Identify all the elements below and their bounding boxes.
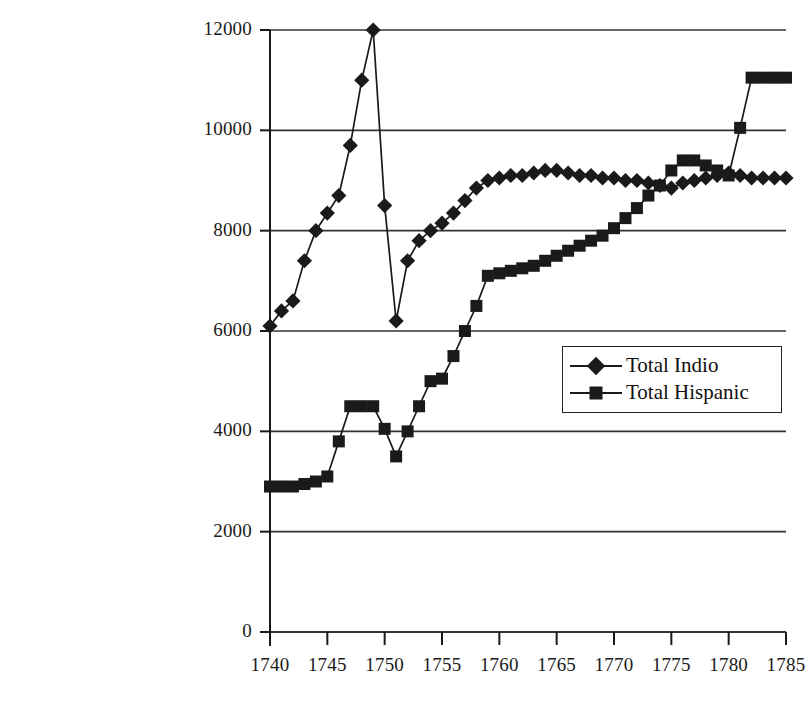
legend-label-total-hispanic: Total Hispanic	[626, 380, 749, 405]
legend-marker-diamond-icon	[570, 356, 622, 376]
y-tick-label-4000: 4000	[213, 419, 252, 441]
data-point-square	[379, 423, 391, 435]
data-point-diamond	[297, 253, 312, 268]
data-point-square	[528, 260, 540, 272]
data-point-square	[746, 72, 758, 84]
data-point-diamond	[320, 206, 335, 221]
legend-item-total-hispanic: Total Hispanic	[570, 379, 771, 406]
data-point-square	[287, 481, 299, 493]
data-point-diamond	[492, 170, 507, 185]
y-tick-label-10000: 10000	[204, 118, 253, 140]
data-point-square	[459, 325, 471, 337]
data-point-diamond	[400, 253, 415, 268]
data-point-square	[585, 235, 597, 247]
data-point-square	[608, 222, 620, 234]
data-point-diamond	[389, 313, 404, 328]
data-point-diamond	[561, 165, 576, 180]
data-point-square	[298, 478, 310, 490]
data-point-diamond	[583, 168, 598, 183]
data-point-diamond	[733, 168, 748, 183]
data-point-square	[321, 470, 333, 482]
data-point-square	[436, 373, 448, 385]
data-point-diamond	[366, 22, 381, 37]
data-point-square	[677, 154, 689, 166]
data-point-diamond	[549, 163, 564, 178]
data-point-square	[275, 481, 287, 493]
y-tick-label-6000: 6000	[213, 319, 252, 341]
data-point-square	[390, 450, 402, 462]
data-point-square	[413, 400, 425, 412]
data-point-square	[470, 300, 482, 312]
data-point-square	[757, 72, 769, 84]
data-point-square	[574, 240, 586, 252]
data-point-square	[780, 72, 792, 84]
data-point-square	[688, 154, 700, 166]
data-point-diamond	[606, 170, 621, 185]
data-point-square	[654, 180, 666, 192]
data-point-square	[310, 476, 322, 488]
data-point-square	[642, 190, 654, 202]
data-point-diamond	[354, 73, 369, 88]
data-point-square	[619, 212, 631, 224]
chart-container: 020004000600080001000012000 174017451750…	[0, 0, 811, 702]
data-point-square	[425, 375, 437, 387]
data-point-square	[769, 72, 781, 84]
data-point-square	[264, 481, 276, 493]
x-tick-label-1785: 1785	[746, 654, 811, 676]
data-point-diamond	[343, 138, 358, 153]
data-point-square	[516, 262, 528, 274]
data-point-square	[597, 230, 609, 242]
data-point-square	[734, 122, 746, 134]
data-point-square	[447, 350, 459, 362]
data-point-diamond	[526, 165, 541, 180]
data-point-square	[333, 435, 345, 447]
data-point-square	[711, 164, 723, 176]
chart-legend: Total Indio Total Hispanic	[562, 346, 782, 413]
data-point-square	[665, 164, 677, 176]
data-point-square	[505, 265, 517, 277]
data-point-diamond	[515, 168, 530, 183]
data-point-diamond	[480, 173, 495, 188]
data-point-diamond	[629, 173, 644, 188]
data-point-square	[482, 270, 494, 282]
data-point-diamond	[687, 173, 702, 188]
data-point-square	[562, 245, 574, 257]
data-point-diamond	[377, 198, 392, 213]
data-point-square	[493, 267, 505, 279]
y-tick-label-2000: 2000	[213, 520, 252, 542]
y-tick-label-12000: 12000	[204, 18, 253, 40]
y-tick-label-0: 0	[242, 620, 252, 642]
data-point-diamond	[698, 170, 713, 185]
data-point-diamond	[778, 170, 793, 185]
data-point-square	[539, 255, 551, 267]
data-point-square	[723, 169, 735, 181]
data-point-square	[402, 425, 414, 437]
data-point-diamond	[641, 175, 656, 190]
data-point-square	[356, 400, 368, 412]
data-point-diamond	[331, 188, 346, 203]
legend-item-total-indio: Total Indio	[570, 352, 771, 379]
data-point-square	[344, 400, 356, 412]
y-tick-label-8000: 8000	[213, 219, 252, 241]
legend-marker-square-icon	[570, 383, 622, 403]
data-point-square	[367, 400, 379, 412]
data-point-square	[551, 250, 563, 262]
legend-label-total-indio: Total Indio	[626, 353, 718, 378]
series-line-total-hispanic	[270, 78, 786, 487]
data-point-square	[700, 159, 712, 171]
data-point-diamond	[308, 223, 323, 238]
data-point-square	[631, 202, 643, 214]
